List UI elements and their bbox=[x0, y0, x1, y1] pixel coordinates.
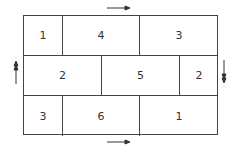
arrow-bottom-right-icon bbox=[107, 140, 130, 144]
grid-cell: 2 bbox=[180, 56, 218, 95]
arrow-right-down-icon bbox=[222, 60, 226, 83]
grid-cell: 2 bbox=[24, 56, 102, 95]
grid-row-1: 1 4 3 bbox=[24, 16, 217, 56]
grid-cell: 6 bbox=[63, 96, 140, 136]
block-grid: 1 4 3 2 5 2 3 6 1 bbox=[23, 15, 218, 135]
grid-cell: 3 bbox=[140, 16, 218, 55]
grid-row-2: 2 5 2 bbox=[24, 56, 217, 96]
grid-cell: 5 bbox=[102, 56, 180, 95]
grid-cell: 3 bbox=[24, 96, 63, 136]
grid-row-3: 3 6 1 bbox=[24, 96, 217, 136]
grid-cell: 1 bbox=[24, 16, 63, 55]
grid-cell: 4 bbox=[63, 16, 140, 55]
grid-cell: 1 bbox=[140, 96, 218, 136]
arrow-left-up-icon bbox=[14, 61, 18, 84]
arrow-top-right-icon bbox=[107, 6, 130, 10]
